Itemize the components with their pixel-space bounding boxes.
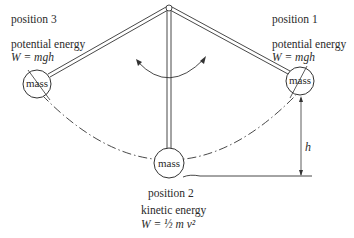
position-3-label: position 3 <box>11 13 57 26</box>
pivot-point <box>166 5 172 11</box>
position-3-energy-type: potential energy <box>11 38 85 51</box>
position-2-formula: W = ½ m v² <box>141 218 195 231</box>
reference-baseline <box>183 175 312 177</box>
height-label: h <box>305 140 311 155</box>
mass-position-1-label: mass <box>285 74 315 86</box>
position-1-formula: W = mgh <box>272 51 315 64</box>
rod-center <box>167 11 171 148</box>
mass-position-2-label: mass <box>154 157 184 169</box>
position-2-energy-type: kinetic energy <box>141 204 206 217</box>
position-1-label: position 1 <box>272 13 318 26</box>
mass-position-3-label: mass <box>22 77 52 89</box>
position-1-energy-type: potential energy <box>272 38 346 51</box>
position-3-formula: W = mgh <box>11 51 54 64</box>
pendulum-diagram <box>0 0 354 238</box>
position-2-label: position 2 <box>148 187 194 200</box>
